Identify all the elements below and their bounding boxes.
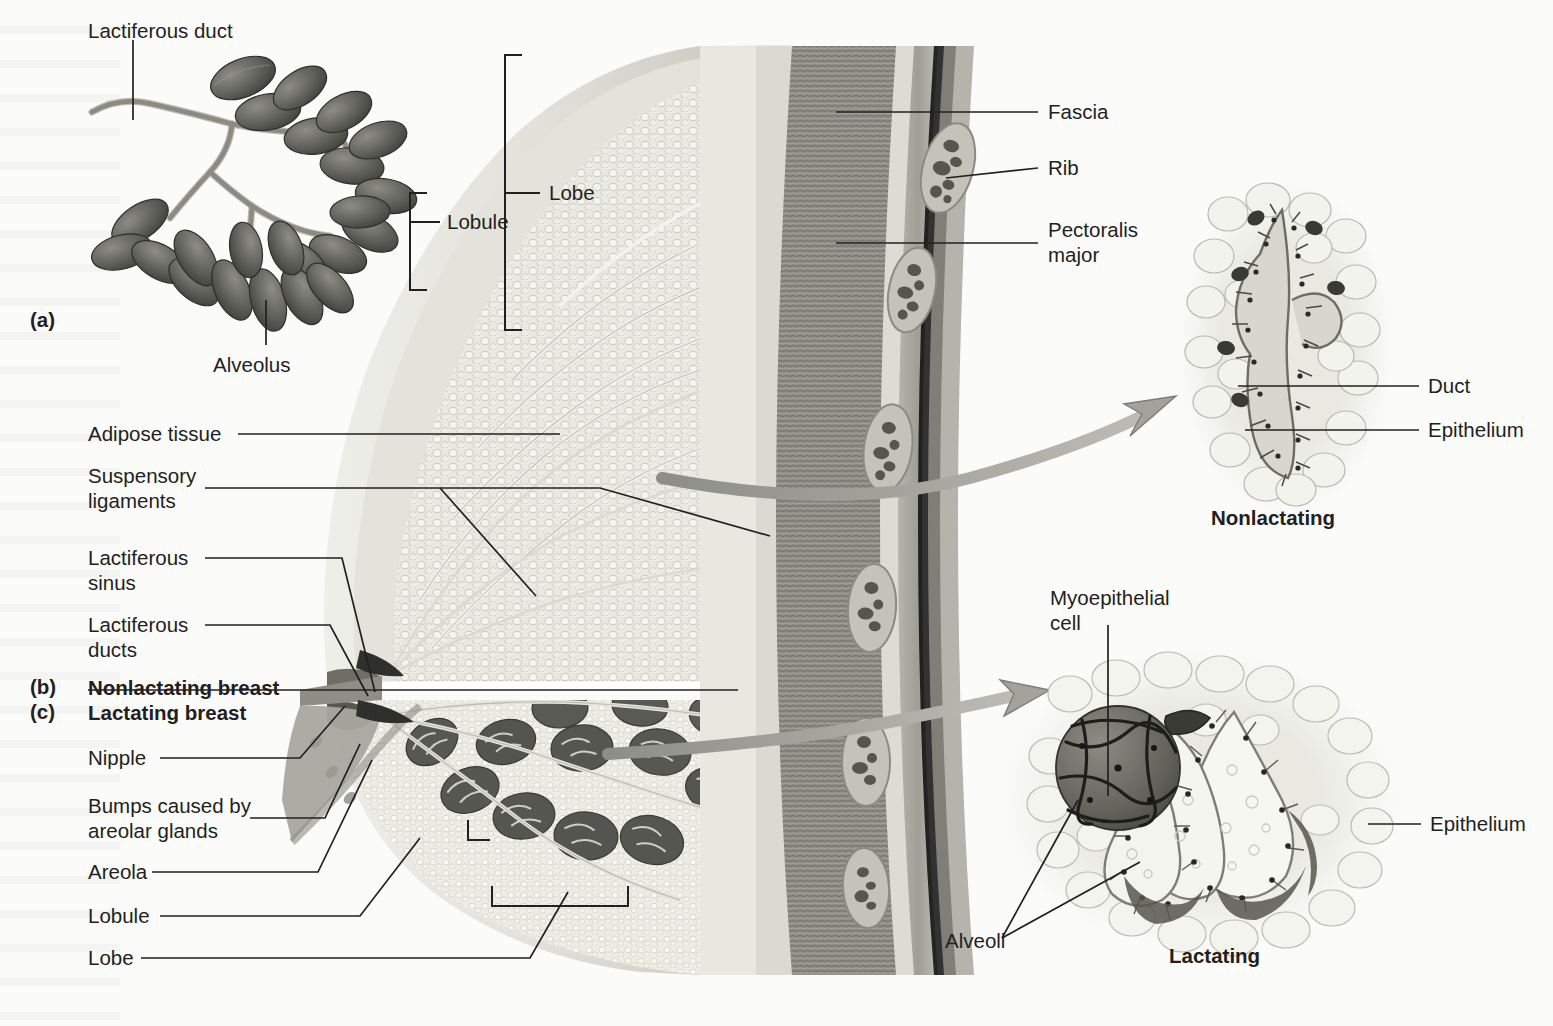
alveoli-cluster [88,48,420,336]
figure-canvas: (a) (b) (c) Lactiferous duct Alveolus Lo… [0,0,1553,1026]
label-lactiferous-ducts: Lactiferous ducts [88,612,188,662]
label-lobe-panel-c: Lobe [88,945,134,970]
panel-a-lobe-artwork [88,48,420,336]
nonlactating-inset-artwork [1178,180,1394,516]
label-rib: Rib [1048,155,1079,180]
label-lobule-panel-c: Lobule [88,903,150,928]
lactating-inset-artwork [1000,648,1400,956]
label-alveoli: Alveoli [945,928,1005,953]
label-lobe-panel-a: Lobe [549,180,595,205]
caption-lactating: Lactating [1169,943,1260,968]
label-lactating-breast: Lactating breast [88,700,246,725]
label-suspensory-ligaments: Suspensory ligaments [88,463,196,513]
label-epithelium-lactating: Epithelium [1430,811,1526,836]
label-nipple: Nipple [88,745,146,770]
label-lactiferous-duct: Lactiferous duct [88,18,233,43]
caption-nonlactating: Nonlactating [1211,505,1335,530]
label-epithelium-nonlactating: Epithelium [1428,417,1524,442]
label-lactiferous-sinus: Lactiferous sinus [88,545,188,595]
label-nonlactating-breast: Nonlactating breast [88,675,279,700]
label-adipose-tissue: Adipose tissue [88,421,221,446]
label-pectoralis-major: Pectoralis major [1048,217,1138,267]
label-myoepithelial-cell: Myoepithelial cell [1050,585,1170,635]
label-lobule-panel-a: Lobule [447,209,509,234]
label-duct: Duct [1428,373,1470,398]
panel-marker-a: (a) [30,308,55,332]
panel-marker-b: (b) [30,675,56,699]
label-fascia: Fascia [1048,99,1108,124]
panel-marker-c: (c) [30,700,55,724]
label-bumps-areolar-glands: Bumps caused by areolar glands [88,793,251,843]
label-alveolus: Alveolus [213,352,291,377]
label-areola: Areola [88,859,147,884]
